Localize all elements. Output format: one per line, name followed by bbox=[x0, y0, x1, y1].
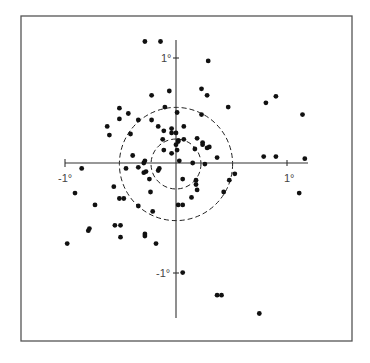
data-point bbox=[156, 124, 161, 129]
data-point bbox=[118, 235, 123, 240]
data-point bbox=[302, 156, 307, 161]
data-point bbox=[156, 168, 161, 173]
data-point bbox=[177, 158, 182, 163]
data-point bbox=[190, 161, 195, 166]
data-point bbox=[117, 196, 122, 201]
data-point bbox=[118, 223, 123, 228]
data-point bbox=[160, 137, 165, 142]
data-point bbox=[154, 241, 159, 246]
data-point bbox=[257, 311, 262, 316]
data-point bbox=[206, 59, 211, 64]
data-point bbox=[147, 177, 152, 182]
data-point bbox=[126, 111, 131, 116]
data-point bbox=[264, 100, 269, 105]
data-point bbox=[79, 166, 84, 171]
data-point bbox=[175, 110, 180, 115]
data-point bbox=[194, 178, 199, 183]
data-point bbox=[117, 106, 122, 111]
data-point bbox=[180, 203, 185, 208]
data-point bbox=[121, 196, 126, 201]
data-point bbox=[207, 145, 212, 150]
data-point bbox=[130, 153, 135, 158]
data-point bbox=[86, 228, 91, 233]
data-point bbox=[297, 191, 302, 196]
data-point bbox=[193, 147, 198, 152]
data-point bbox=[215, 155, 220, 160]
data-point bbox=[300, 112, 305, 117]
data-point bbox=[161, 128, 166, 133]
data-point bbox=[111, 184, 116, 189]
y-tick-label-pos-1: 1° bbox=[161, 52, 172, 64]
data-point bbox=[219, 293, 224, 298]
data-point bbox=[174, 142, 179, 147]
data-point bbox=[107, 133, 112, 138]
data-point bbox=[143, 39, 148, 44]
data-point bbox=[169, 151, 174, 156]
data-point bbox=[158, 39, 163, 44]
data-point bbox=[150, 209, 155, 214]
data-point bbox=[194, 182, 199, 187]
data-point bbox=[199, 86, 204, 91]
data-point bbox=[93, 203, 98, 208]
data-point bbox=[232, 171, 237, 176]
data-point bbox=[167, 89, 172, 94]
x-tick-label-pos-1: 1° bbox=[284, 172, 295, 184]
data-point bbox=[117, 117, 122, 122]
data-point bbox=[113, 223, 118, 228]
data-point bbox=[149, 118, 154, 123]
data-point bbox=[163, 105, 168, 110]
data-point bbox=[274, 94, 279, 99]
y-tick-label-neg-1: -1° bbox=[156, 267, 170, 279]
data-point bbox=[136, 165, 141, 170]
data-point bbox=[195, 136, 200, 141]
data-point bbox=[261, 154, 266, 159]
data-point bbox=[199, 112, 204, 117]
data-point bbox=[141, 170, 146, 175]
data-point bbox=[136, 204, 141, 209]
data-point bbox=[274, 154, 279, 159]
data-point bbox=[176, 138, 181, 143]
data-point bbox=[205, 93, 210, 98]
data-points bbox=[65, 39, 307, 316]
data-point bbox=[181, 124, 186, 129]
data-point bbox=[149, 93, 154, 98]
data-point bbox=[105, 124, 110, 129]
data-point bbox=[195, 188, 200, 193]
data-point bbox=[180, 270, 185, 275]
data-point bbox=[215, 293, 220, 298]
data-point bbox=[181, 137, 186, 142]
data-point bbox=[73, 191, 78, 196]
data-point bbox=[175, 148, 180, 153]
data-point bbox=[189, 195, 194, 200]
data-point bbox=[136, 118, 141, 123]
data-point bbox=[169, 131, 174, 136]
scatter-chart: -1° 1° 1° -1° bbox=[0, 0, 370, 363]
data-point bbox=[143, 234, 148, 239]
x-tick-label-neg-1: -1° bbox=[58, 172, 72, 184]
data-point bbox=[148, 190, 153, 195]
data-point bbox=[176, 203, 181, 208]
data-point bbox=[200, 142, 205, 147]
data-point bbox=[180, 177, 185, 182]
data-point bbox=[169, 126, 174, 131]
data-point bbox=[221, 190, 226, 195]
data-point bbox=[128, 132, 133, 137]
data-point bbox=[226, 105, 231, 110]
data-point bbox=[141, 161, 146, 166]
data-point bbox=[65, 241, 70, 246]
data-point bbox=[174, 131, 179, 136]
data-point bbox=[161, 148, 166, 153]
data-point bbox=[203, 162, 208, 167]
data-point bbox=[227, 178, 232, 183]
data-point bbox=[124, 166, 129, 171]
